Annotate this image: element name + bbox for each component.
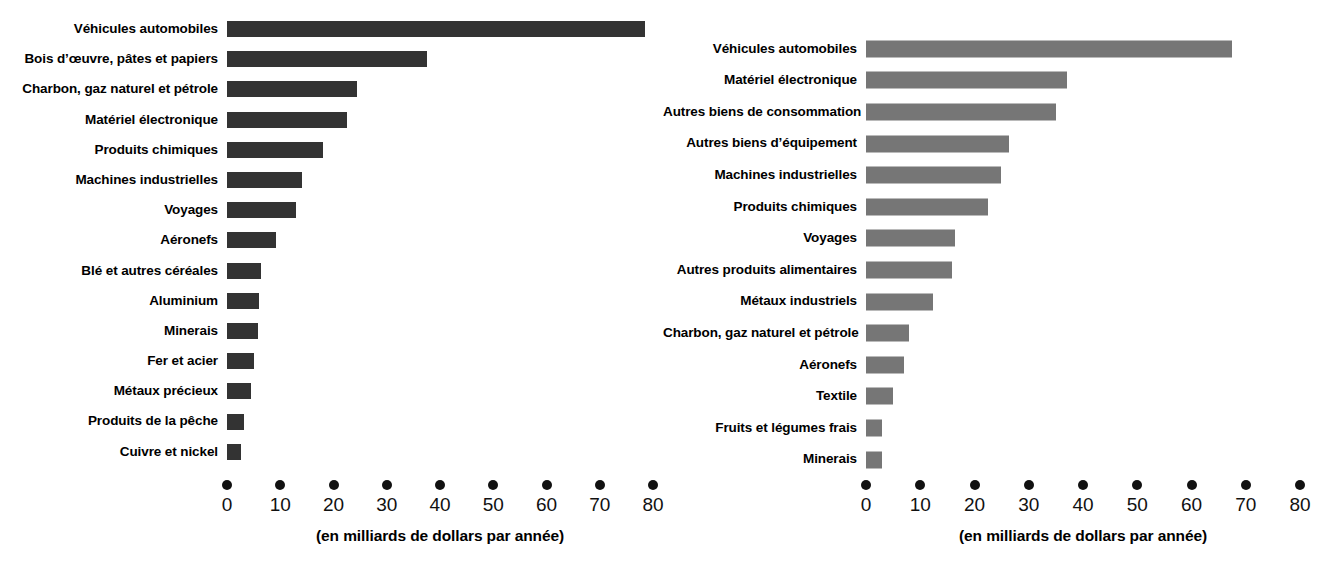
bar: [866, 356, 904, 373]
bar-track: [866, 191, 1333, 223]
chart-panel-right: Véhicules automobilesMatériel électroniq…: [663, 0, 1333, 575]
axis-tick-dot: [435, 480, 445, 490]
bar-row: Métaux industriels: [663, 286, 1333, 318]
category-label: Produits chimiques: [663, 200, 866, 214]
axis-tick-label: 70: [1235, 494, 1256, 516]
bar-row: Produits chimiques: [663, 191, 1333, 223]
bar-row: Aluminium: [0, 286, 670, 316]
bar: [866, 72, 1067, 89]
category-label: Fruits et légumes frais: [663, 421, 866, 435]
axis-tick-label: 60: [536, 494, 557, 516]
category-label: Métaux industriels: [663, 294, 866, 308]
axis-tick-dot: [648, 480, 658, 490]
bar-row: Bois d’œuvre, pâtes et papiers: [0, 44, 670, 74]
bar-track: [866, 349, 1333, 381]
bar-track: [227, 44, 670, 74]
axis-tick-label: 30: [1018, 494, 1039, 516]
category-label: Produits chimiques: [0, 143, 227, 157]
axis-tick-dot: [1295, 480, 1305, 490]
bar-row: Autres produits alimentaires: [663, 254, 1333, 286]
bar-row: Produits de la pêche: [0, 406, 670, 436]
axis-tick-label: 40: [429, 494, 450, 516]
bar: [866, 40, 1232, 57]
axis-tick-dot: [222, 480, 232, 490]
bar: [866, 135, 1009, 152]
bar-row: Fruits et légumes frais: [663, 412, 1333, 444]
category-label: Voyages: [0, 203, 227, 217]
category-label: Autres biens d’équipement: [663, 136, 866, 150]
bar: [227, 353, 254, 369]
axis-tick-dot: [970, 480, 980, 490]
axis-tick-dot: [1241, 480, 1251, 490]
axis-tick-labels-left: 01020304050607080: [0, 494, 670, 520]
category-label: Voyages: [663, 231, 866, 245]
category-label: Matériel électronique: [0, 113, 227, 127]
category-label: Charbon, gaz naturel et pétrole: [0, 82, 227, 96]
bar-row: Blé et autres céréales: [0, 256, 670, 286]
category-label: Véhicules automobiles: [663, 42, 866, 56]
category-label: Charbon, gaz naturel et pétrole: [663, 326, 866, 340]
bar-row: Voyages: [663, 223, 1333, 255]
bar-track: [866, 33, 1333, 65]
bar: [227, 323, 258, 339]
axis-tick-dot: [488, 480, 498, 490]
bar-track: [227, 105, 670, 135]
category-label: Autres produits alimentaires: [663, 263, 866, 277]
bar-rows-right: Véhicules automobilesMatériel électroniq…: [663, 33, 1333, 475]
bar-row: Véhicules automobiles: [663, 33, 1333, 65]
bar-track: [227, 437, 670, 467]
bar-track: [227, 74, 670, 104]
bar-row: Métaux précieux: [0, 376, 670, 406]
axis-tick-dot: [915, 480, 925, 490]
axis-tick-dot: [542, 480, 552, 490]
bar: [866, 293, 933, 310]
chart-panel-left: Véhicules automobilesBois d’œuvre, pâtes…: [0, 0, 670, 575]
axis-tick-dot: [861, 480, 871, 490]
bar: [866, 451, 882, 468]
axis-tick-label: 30: [376, 494, 397, 516]
bar: [227, 142, 323, 158]
x-axis-right: 01020304050607080: [663, 478, 1333, 520]
category-label: Métaux précieux: [0, 384, 227, 398]
bar-track: [866, 317, 1333, 349]
category-label: Aéronefs: [663, 358, 866, 372]
category-label: Autres biens de consommation: [663, 105, 866, 119]
axis-tick-label: 60: [1181, 494, 1202, 516]
bar-row: Cuivre et nickel: [0, 437, 670, 467]
axis-caption-right: (en milliards de dollars par année): [866, 527, 1300, 545]
bar-track: [227, 135, 670, 165]
bar-row: Aéronefs: [0, 225, 670, 255]
bar-row: Fer et acier: [0, 346, 670, 376]
category-label: Blé et autres céréales: [0, 264, 227, 278]
bar-row: Autres biens de consommation: [663, 96, 1333, 128]
bar-track: [866, 254, 1333, 286]
category-label: Cuivre et nickel: [0, 445, 227, 459]
bar-row: Minerais: [0, 316, 670, 346]
axis-tick-dots-left: [0, 478, 670, 494]
bar: [227, 172, 302, 188]
axis-tick-dot: [1024, 480, 1034, 490]
bar-row: Matériel électronique: [663, 65, 1333, 97]
category-label: Fer et acier: [0, 354, 227, 368]
bar: [227, 263, 261, 279]
axis-tick-label: 20: [323, 494, 344, 516]
bar: [227, 21, 645, 37]
category-label: Minerais: [663, 452, 866, 466]
bar-track: [227, 346, 670, 376]
axis-tick-label: 20: [964, 494, 985, 516]
category-label: Machines industrielles: [0, 173, 227, 187]
bar: [866, 261, 952, 278]
bar-row: Machines industrielles: [0, 165, 670, 195]
bar: [866, 198, 988, 215]
category-label: Produits de la pêche: [0, 414, 227, 428]
bar: [227, 414, 244, 430]
bar-track: [227, 195, 670, 225]
bar: [227, 383, 251, 399]
bar-row: Produits chimiques: [0, 135, 670, 165]
axis-tick-label: 10: [270, 494, 291, 516]
chart-page: Véhicules automobilesBois d’œuvre, pâtes…: [0, 0, 1333, 575]
bar: [227, 232, 276, 248]
axis-tick-label: 0: [222, 494, 233, 516]
category-label: Matériel électronique: [663, 73, 866, 87]
axis-caption-left: (en milliards de dollars par année): [227, 527, 653, 545]
